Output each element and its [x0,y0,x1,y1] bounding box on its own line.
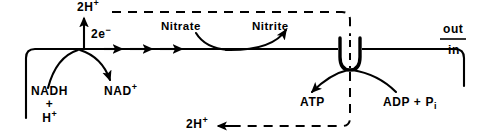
diagram-vector-layer [0,0,490,140]
diagram-canvas: 2H+ 2e− NADH + H+ NAD+ Nitrate Nitrite A… [0,0,490,140]
nadh-plus-sign: + [31,98,68,111]
compartment-out-label: out [443,23,463,36]
nitrate-input-curve [196,33,228,50]
nadh-text: NADH [31,85,68,98]
adp-label: ADP + Pi [383,96,437,109]
nadh-input-curve [48,50,78,88]
proton-circuit-top [112,12,350,36]
nitrite-label: Nitrite [252,20,289,32]
nadh-label: NADH + H+ [31,85,68,125]
atp-output-curve [312,70,348,92]
nad-output-curve [80,50,110,80]
adp-input-curve [352,70,396,92]
atp-label: ATP [300,96,325,109]
nitrate-label: Nitrate [161,20,201,32]
nadh-proton-text: H+ [31,112,68,125]
protons-in-label: 2H+ [186,118,208,131]
proton-circuit-bottom [230,72,350,126]
protons-out-label: 2H+ [77,1,99,14]
electrons-label: 2e− [91,28,111,41]
compartment-in-label: in [448,44,460,57]
nitrite-output-curve [226,30,286,50]
nad-oxidized-label: NAD+ [104,85,137,98]
